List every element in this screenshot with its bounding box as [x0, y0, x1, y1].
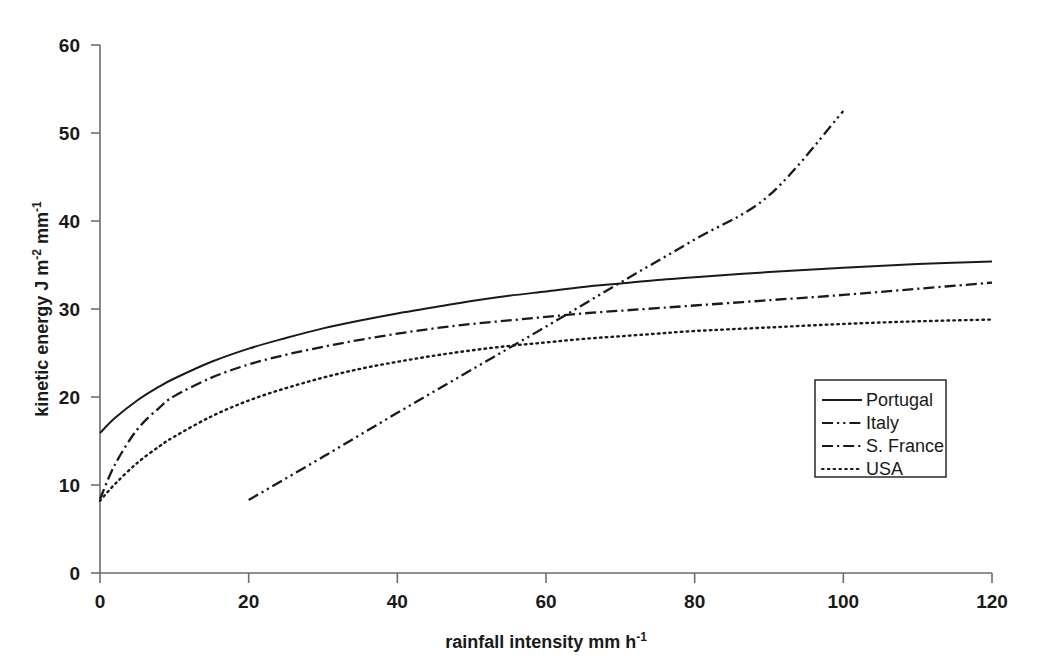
y-axis-title-text: kinetic energy J m-2 mm-1 — [30, 201, 52, 417]
y-axis-title-part1: kinetic energy J m — [32, 260, 52, 417]
y-axis-title-superscript1: -2 — [30, 249, 44, 260]
x-tick-label: 80 — [684, 591, 705, 612]
x-axis-title-text: rainfall intensity mm h-1 — [445, 630, 647, 652]
y-tick-label: 0 — [69, 563, 80, 584]
chart-legend[interactable]: PortugalItalyS. FranceUSA — [815, 380, 946, 479]
x-axis-title-superscript: -1 — [636, 630, 647, 644]
y-axis-title-superscript2: -1 — [30, 201, 44, 212]
y-tick-label: 40 — [59, 211, 80, 232]
y-tick-label: 30 — [59, 299, 80, 320]
x-tick-label: 60 — [535, 591, 556, 612]
legend-label-portugal: Portugal — [866, 390, 933, 410]
legend-label-italy: Italy — [866, 413, 899, 433]
y-tick-label: 60 — [59, 35, 80, 56]
x-tick-label: 120 — [976, 591, 1008, 612]
x-axis-title: rainfall intensity mm h-1 — [445, 630, 647, 652]
x-tick-label: 40 — [387, 591, 408, 612]
y-tick-label: 10 — [59, 475, 80, 496]
chart-figure: 0102030405060 020406080100120 rainfall i… — [0, 0, 1049, 668]
x-axis-title-base: rainfall intensity mm h — [445, 632, 636, 652]
y-tick-label: 20 — [59, 387, 80, 408]
x-tick-label: 0 — [95, 591, 106, 612]
y-tick-label: 50 — [59, 123, 80, 144]
x-tick-label: 100 — [827, 591, 859, 612]
x-tick-label: 20 — [238, 591, 259, 612]
legend-label-usa: USA — [866, 459, 903, 479]
rainfall-kinetic-energy-chart: 0102030405060 020406080100120 rainfall i… — [0, 0, 1049, 668]
y-axis-title: kinetic energy J m-2 mm-1 — [30, 201, 52, 417]
y-axis-title-part2: mm — [32, 212, 52, 249]
chart-background — [0, 0, 1049, 668]
legend-label-s-france: S. France — [866, 436, 944, 456]
